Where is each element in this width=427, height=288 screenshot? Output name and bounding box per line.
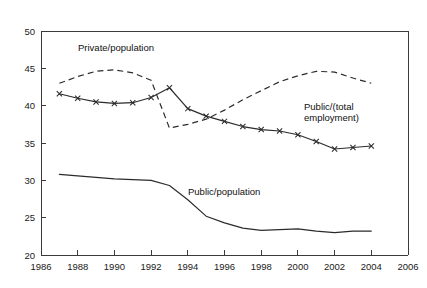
x-axis-tick-labels: 1986 1988 1990 1992 1994 1996 1998 2000 …: [30, 261, 418, 272]
x-tick-label: 2000: [287, 261, 308, 272]
x-axis-ticks: [41, 250, 408, 255]
y-tick-label: 35: [24, 138, 35, 149]
y-axis-tick-labels: 20 25 30 35 40 45 50: [24, 26, 35, 261]
y-tick-label: 40: [24, 100, 35, 111]
data-point-marker: [314, 139, 319, 144]
x-tick-label: 1990: [104, 261, 125, 272]
x-tick-label: 1994: [177, 261, 198, 272]
y-tick-label: 45: [24, 63, 35, 74]
series-public-population: [59, 174, 371, 232]
x-tick-label: 2006: [397, 261, 418, 272]
x-tick-label: 1988: [67, 261, 88, 272]
data-point-marker: [167, 85, 172, 90]
plot-frame: [41, 31, 408, 255]
x-tick-label: 2002: [324, 261, 345, 272]
x-tick-label: 1998: [251, 261, 272, 272]
series-path: [59, 174, 371, 232]
line-chart: 20 25 30 35 40 45 50 1986 1988 1990: [0, 0, 427, 288]
x-tick-label: 2004: [361, 261, 382, 272]
y-tick-label: 50: [24, 26, 35, 37]
annotation-private-population: Private/population: [78, 42, 154, 53]
chart-figure: 20 25 30 35 40 45 50 1986 1988 1990: [0, 0, 427, 288]
annotation-public-total-employment-line1: Public/(total: [304, 101, 354, 112]
y-axis-ticks: [41, 31, 46, 255]
annotation-public-total-employment-line2: employment): [304, 112, 359, 123]
x-tick-label: 1992: [141, 261, 162, 272]
y-tick-label: 20: [24, 250, 35, 261]
y-tick-label: 25: [24, 212, 35, 223]
x-tick-label: 1996: [214, 261, 235, 272]
x-tick-label: 1986: [30, 261, 51, 272]
series-layer: [57, 70, 374, 233]
data-point-marker: [185, 106, 190, 111]
annotation-public-population: Public/population: [188, 186, 260, 197]
y-tick-label: 30: [24, 175, 35, 186]
